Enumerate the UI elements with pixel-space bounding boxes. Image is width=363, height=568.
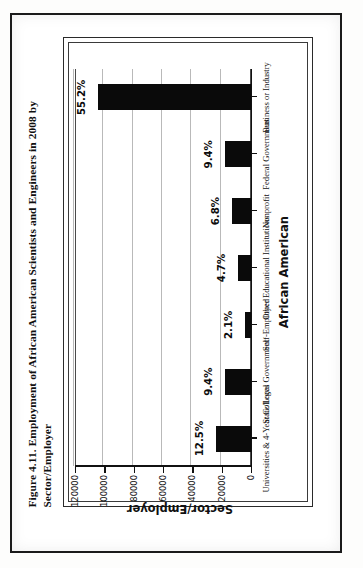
bar-data-label: 55.2%: [76, 80, 87, 115]
category-axis-tick: [251, 210, 257, 211]
category-axis-tick: [251, 324, 257, 325]
value-axis-tick-label: 40000: [187, 475, 197, 502]
bar-data-label: 12.5%: [194, 421, 205, 456]
category-axis-title: Sector/Employer: [115, 502, 245, 516]
category-axis-label: Business or Industry: [261, 62, 271, 133]
category-axis-tick: [251, 96, 257, 97]
value-axis-title: African American: [277, 37, 291, 507]
category-axis-label-slot: Business or Industry: [261, 22, 271, 172]
value-axis-tick-label: 60000: [158, 475, 168, 502]
bar-slot: 55.2%: [75, 84, 251, 110]
bar-slot: 9.4%: [75, 369, 251, 395]
value-axis-tick: [163, 467, 164, 473]
bar-data-label: 2.1%: [223, 311, 234, 339]
value-axis-tick: [222, 467, 223, 473]
bar: [238, 255, 251, 281]
category-axis-tick: [251, 437, 257, 438]
bar-data-label: 9.4%: [203, 140, 214, 168]
category-axis-line: [251, 69, 252, 467]
bar-slot: 12.5%: [75, 426, 251, 452]
bar-slot: 6.8%: [75, 198, 251, 224]
bar: [98, 84, 251, 110]
value-axis-tick-label: 80000: [129, 475, 139, 502]
chart-canvas: 12.5%9.4%2.1%4.7%6.8%9.4%55.2% 020000400…: [63, 37, 313, 507]
figure-caption: Figure 4.11. Employment of African Ameri…: [25, 16, 54, 508]
bar: [216, 426, 251, 452]
gridline: [73, 69, 74, 466]
bar-data-label: 6.8%: [210, 197, 221, 225]
value-axis-tick: [192, 467, 193, 473]
value-axis-tick-label: 0: [246, 475, 256, 480]
bar: [245, 312, 251, 338]
category-axis-tick: [251, 153, 257, 154]
value-axis-tick: [134, 467, 135, 473]
bar: [232, 198, 251, 224]
bar-slot: 4.7%: [75, 255, 251, 281]
bar: [225, 369, 251, 395]
figure-rotation-host: 12.5%9.4%2.1%4.7%6.8%9.4%55.2% 020000400…: [63, 37, 313, 507]
value-axis-tick-label: 120000: [70, 475, 80, 507]
scanned-page-frame: Figure 4.11. Employment of African Ameri…: [10, 13, 342, 553]
value-axis-tick: [75, 467, 76, 473]
value-axis-tick-label: 100000: [99, 475, 109, 507]
value-axis-labels: 020000400006000080000100000120000: [63, 467, 263, 507]
value-axis-tick-label: 20000: [217, 475, 227, 502]
value-axis-tick: [251, 467, 252, 473]
bar-series: 12.5%9.4%2.1%4.7%6.8%9.4%55.2%: [75, 69, 251, 467]
bar: [225, 141, 251, 167]
value-axis-tick: [104, 467, 105, 473]
category-axis-tick: [251, 381, 257, 382]
bar-slot: 2.1%: [75, 312, 251, 338]
bar-data-label: 9.4%: [203, 368, 214, 396]
bar-slot: 9.4%: [75, 141, 251, 167]
category-axis-tick: [251, 267, 257, 268]
bar-data-label: 4.7%: [216, 254, 227, 282]
